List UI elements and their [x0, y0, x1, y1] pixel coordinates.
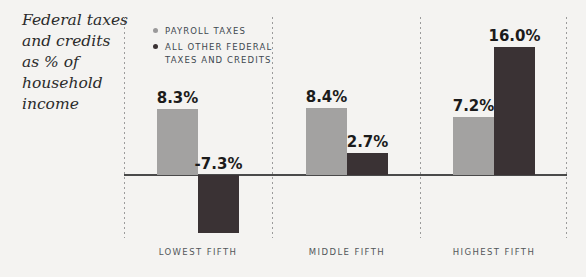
chart-title-line: as % of	[22, 52, 132, 73]
value-label-highest-fifth-1: 16.0%	[488, 27, 540, 45]
legend-item-label: ALL OTHER FEDERAL TAXES AND CREDITS	[165, 41, 287, 67]
value-label-middle-fifth-0: 8.4%	[306, 88, 348, 106]
legend-item-label: PAYROLL TAXES	[165, 25, 246, 38]
category-label-middle-fifth: MIDDLE FIFTH	[309, 247, 385, 257]
chart-title-line: household	[22, 73, 132, 94]
section-divider	[124, 17, 125, 238]
chart-title-line: and credits	[22, 31, 132, 52]
chart-title-line: Federal taxes	[22, 10, 132, 31]
bar-payroll-lowest-fifth	[157, 109, 198, 175]
legend-dot-icon	[153, 44, 158, 49]
section-divider	[566, 17, 567, 238]
chart-legend: PAYROLL TAXES ALL OTHER FEDERAL TAXES AN…	[153, 25, 287, 67]
value-label-lowest-fifth-1: -7.3%	[195, 155, 243, 173]
chart-title: Federal taxes and credits as % of househ…	[22, 10, 132, 115]
value-label-lowest-fifth-0: 8.3%	[157, 89, 199, 107]
section-divider	[420, 17, 421, 238]
bar-all-highest-fifth	[494, 47, 535, 175]
legend-dot-icon	[153, 28, 158, 33]
bar-all-lowest-fifth	[198, 175, 239, 233]
chart-title-line: income	[22, 94, 132, 115]
category-label-highest-fifth: HIGHEST FIFTH	[453, 247, 535, 257]
bar-all-middle-fifth	[347, 153, 388, 175]
legend-item-payroll-taxes: PAYROLL TAXES	[153, 25, 287, 38]
chart-canvas: Federal taxes and credits as % of househ…	[0, 0, 586, 277]
category-label-lowest-fifth: LOWEST FIFTH	[159, 247, 238, 257]
bar-payroll-middle-fifth	[306, 108, 347, 175]
bar-payroll-highest-fifth	[453, 117, 494, 175]
legend-item-all-other-federal: ALL OTHER FEDERAL TAXES AND CREDITS	[153, 41, 287, 67]
value-label-middle-fifth-1: 2.7%	[347, 133, 389, 151]
value-label-highest-fifth-0: 7.2%	[453, 97, 495, 115]
